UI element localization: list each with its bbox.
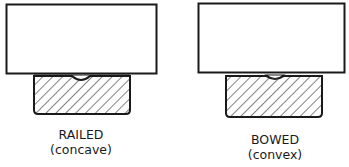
bowed-label: BOWED (convex) xyxy=(220,132,330,162)
railed-subtitle: (concave) xyxy=(26,142,136,157)
bowed-hatched-block xyxy=(226,76,322,117)
bowed-subtitle: (convex) xyxy=(220,147,330,162)
bowed-figure xyxy=(199,4,345,118)
railed-hatched-block xyxy=(34,76,130,114)
railed-label: RAILED (concave) xyxy=(26,127,136,157)
bowed-upper-block xyxy=(199,4,345,73)
bowed-title: BOWED xyxy=(220,132,330,147)
railed-title: RAILED xyxy=(26,127,136,142)
railed-upper-block xyxy=(7,5,157,74)
railed-figure xyxy=(7,5,157,115)
